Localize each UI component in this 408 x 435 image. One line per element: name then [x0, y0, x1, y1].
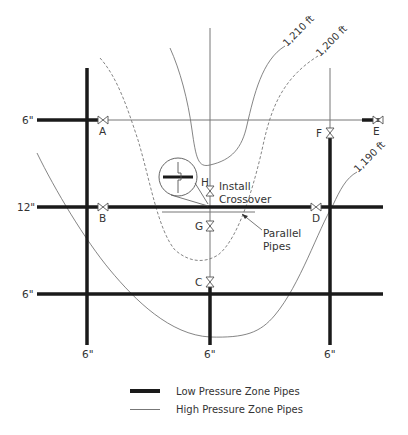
low-pressure-swatch-icon — [130, 389, 160, 393]
pipe-size-top-row: 6" — [22, 114, 34, 126]
valve-c-label: C — [195, 276, 202, 288]
install-crossover-label-2: Crossover — [219, 193, 272, 205]
contour-1210-label: 1,210 ft — [281, 13, 316, 48]
legend: Low Pressure Zone Pipes High Pressure Zo… — [130, 382, 370, 418]
valve-g-label: G — [195, 220, 203, 232]
valve-e-label: E — [373, 125, 380, 137]
high-pressure-swatch-icon — [130, 409, 160, 410]
valve-a-icon — [98, 116, 108, 124]
valve-e-icon — [373, 116, 383, 124]
valve-h-label: H — [201, 176, 209, 188]
pipe-size-bottom-row: 6" — [22, 288, 34, 300]
legend-label: High Pressure Zone Pipes — [176, 404, 303, 415]
contour-1190-label: 1,190 ft — [352, 139, 387, 174]
valve-b-icon — [98, 203, 108, 211]
legend-label: Low Pressure Zone Pipes — [176, 386, 300, 397]
install-crossover-label-1: Install — [219, 180, 251, 192]
parallel-pipes-leader — [242, 214, 262, 230]
valve-b-label: B — [99, 212, 106, 224]
pipe-size-middle-col: 6" — [204, 348, 216, 360]
pipe-network-diagram: 6" 12" 6" 6" 6" 6" A B C D E F G H Insta… — [0, 0, 408, 435]
parallel-pipes-label-1: Parallel — [263, 227, 301, 239]
legend-item-high-pressure: High Pressure Zone Pipes — [130, 400, 370, 418]
parallel-pipes-label-2: Pipes — [263, 240, 291, 252]
valve-a-label: A — [99, 125, 107, 137]
valve-d-icon — [311, 203, 321, 211]
pipe-size-right-col: 6" — [324, 348, 336, 360]
contour-1210 — [170, 46, 285, 166]
valve-g-icon — [206, 221, 214, 231]
valve-c-icon — [206, 277, 214, 287]
contour-1200-label: 1,200 ft — [314, 23, 349, 58]
legend-item-low-pressure: Low Pressure Zone Pipes — [130, 382, 370, 400]
valve-f-label: F — [316, 127, 322, 139]
pipe-size-middle-row: 12" — [17, 201, 35, 213]
valve-d-label: D — [312, 212, 320, 224]
pipe-size-left-col: 6" — [82, 348, 94, 360]
valve-f-icon — [326, 128, 334, 138]
